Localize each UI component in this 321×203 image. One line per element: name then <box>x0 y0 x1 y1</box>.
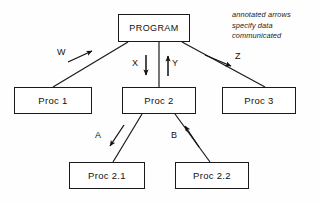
node-proc-1-label: Proc 1 <box>38 95 67 106</box>
arrow-b <box>185 126 199 147</box>
node-proc-2-1-label: Proc 2.1 <box>88 170 126 181</box>
connector-proc2-proc21 <box>113 114 142 162</box>
edge-label-z: Z <box>235 51 241 61</box>
connector-program-proc3 <box>182 42 265 87</box>
edge-label-b: B <box>171 130 177 140</box>
annotation-note: annotated arrows specify data communicat… <box>232 10 318 42</box>
edge-label-y: Y <box>172 58 178 68</box>
node-program[interactable]: PROGRAM <box>118 14 190 42</box>
node-proc-2-2[interactable]: Proc 2.2 <box>175 162 249 189</box>
node-proc-3-label: Proc 3 <box>244 95 273 106</box>
annotation-line-3: communicated <box>232 31 318 42</box>
annotation-line-1: annotated arrows <box>232 10 318 21</box>
arrow-w <box>68 51 92 62</box>
arrow-a <box>110 125 124 146</box>
edge-label-a: A <box>95 130 101 140</box>
node-proc-2-1[interactable]: Proc 2.1 <box>69 162 145 189</box>
node-proc-2-2-label: Proc 2.2 <box>193 170 231 181</box>
edge-label-w: W <box>57 47 66 57</box>
edge-label-x: X <box>132 58 138 68</box>
node-proc-1[interactable]: Proc 1 <box>14 87 92 114</box>
arrow-z <box>205 55 231 66</box>
node-proc-2[interactable]: Proc 2 <box>122 87 196 114</box>
annotation-line-2: specify data <box>232 21 318 32</box>
node-program-label: PROGRAM <box>129 23 178 33</box>
diagram-canvas: PROGRAM Proc 1 Proc 2 Proc 3 Proc 2.1 Pr… <box>0 0 321 203</box>
node-proc-2-label: Proc 2 <box>144 95 173 106</box>
node-proc-3[interactable]: Proc 3 <box>222 87 296 114</box>
